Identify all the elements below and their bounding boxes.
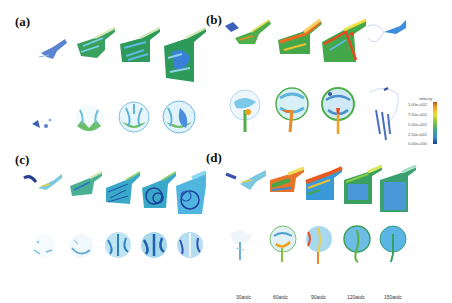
panel-b-front-view-1 bbox=[228, 88, 262, 142]
velocity-colorbar bbox=[433, 102, 437, 144]
velocity-legend: velocity 1.00e+002 7.50e+001 5.00e+001 2… bbox=[405, 93, 452, 153]
panel-a-side-view-3 bbox=[118, 28, 160, 70]
legend-tick-min: 0.00e+000 bbox=[408, 141, 427, 146]
panel-b-side-view-1 bbox=[225, 18, 271, 48]
panel-c-side-view-3 bbox=[104, 172, 140, 206]
panel-d-front-view-1 bbox=[226, 226, 256, 266]
panel-b-side-view-4 bbox=[366, 18, 408, 52]
panel-d-side-view-4 bbox=[342, 166, 382, 206]
panel-d-front-view-3 bbox=[304, 224, 334, 268]
panel-label-b: (b) bbox=[206, 12, 222, 28]
panel-b-front-view-2 bbox=[274, 86, 310, 140]
panel-b-side-view-2 bbox=[276, 20, 322, 56]
legend-title: velocity bbox=[419, 96, 432, 101]
panel-a-front-view-2 bbox=[74, 102, 104, 136]
panel-b-side-view-3 bbox=[320, 20, 366, 64]
panel-a-side-view-1 bbox=[35, 35, 69, 65]
legend-tick-25: 2.50e+001 bbox=[408, 132, 427, 137]
panel-c-side-view-4 bbox=[140, 172, 176, 210]
panel-d-side-view-5 bbox=[378, 166, 416, 214]
panel-a-front-view-1 bbox=[30, 110, 58, 136]
panel-a-side-view-4 bbox=[162, 28, 206, 84]
panel-label-d: (d) bbox=[206, 150, 222, 166]
panel-c-front-view-1 bbox=[30, 232, 56, 260]
time-label-120: 120atdc bbox=[347, 294, 365, 300]
panel-label-a: (a) bbox=[15, 14, 30, 30]
panel-d-front-view-4 bbox=[342, 224, 372, 268]
panel-c-front-view-3 bbox=[104, 230, 132, 260]
panel-d-side-view-2 bbox=[268, 168, 304, 194]
panel-a-side-view-2 bbox=[75, 28, 115, 66]
time-label-30: 30atdc bbox=[236, 294, 251, 300]
time-label-60: 60atdc bbox=[273, 294, 288, 300]
time-label-90: 90atdc bbox=[311, 294, 326, 300]
panel-d-front-view-5 bbox=[378, 224, 408, 268]
panel-c-side-view-2 bbox=[68, 172, 102, 198]
panel-label-c: (c) bbox=[15, 152, 29, 168]
panel-c-side-view-1 bbox=[24, 174, 64, 194]
legend-tick-max: 1.00e+002 bbox=[408, 102, 427, 107]
panel-c-front-view-5 bbox=[176, 230, 204, 260]
panel-a-front-view-4 bbox=[162, 100, 196, 134]
panel-c-side-view-5 bbox=[176, 172, 208, 216]
panel-d-side-view-1 bbox=[226, 168, 266, 194]
panel-d-side-view-3 bbox=[304, 168, 342, 202]
legend-tick-75: 7.50e+001 bbox=[408, 112, 427, 117]
panel-c-front-view-2 bbox=[68, 232, 94, 260]
legend-tick-50: 5.00e+001 bbox=[408, 122, 427, 127]
panel-d-front-view-2 bbox=[268, 224, 298, 268]
panel-c-front-view-4 bbox=[140, 230, 168, 260]
panel-a-front-view-3 bbox=[118, 100, 150, 134]
time-label-150: 150atdc bbox=[384, 294, 402, 300]
panel-b-front-view-3 bbox=[320, 86, 356, 140]
panel-b-front-view-4 bbox=[366, 84, 402, 144]
